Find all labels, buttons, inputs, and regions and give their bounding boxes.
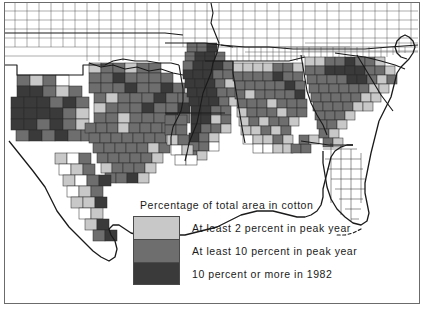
legend-swatch-light <box>133 216 180 239</box>
legend-swatch-medium <box>133 239 180 262</box>
legend-label-dark: 10 percent or more in 1982 <box>192 268 332 280</box>
map-legend: Percentage of total area in cotton At le… <box>133 199 373 285</box>
map-frame: Percentage of total area in cotton At le… <box>4 2 420 304</box>
legend-label-medium: At least 10 percent in peak year <box>192 245 357 257</box>
legend-item-medium: At least 10 percent in peak year <box>133 239 373 262</box>
legend-item-dark: 10 percent or more in 1982 <box>133 262 373 285</box>
legend-items: At least 2 percent in peak year At least… <box>133 216 373 285</box>
legend-item-light: At least 2 percent in peak year <box>133 216 373 239</box>
legend-label-light: At least 2 percent in peak year <box>192 222 351 234</box>
cotton-area-map-figure: Percentage of total area in cotton At le… <box>0 0 428 318</box>
legend-title: Percentage of total area in cotton <box>133 199 373 211</box>
legend-swatch-dark <box>133 262 180 285</box>
